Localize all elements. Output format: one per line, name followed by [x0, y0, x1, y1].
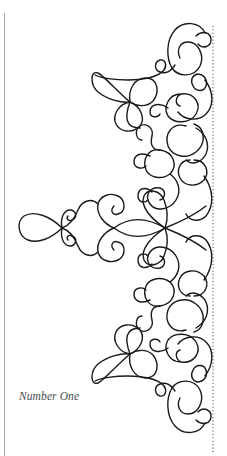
center-right-arc-down — [165, 228, 206, 250]
top-connector — [95, 60, 175, 80]
lower-right-circle-1 — [192, 366, 207, 383]
lower-mid-curl — [186, 293, 208, 328]
upper-mid-circle-b — [178, 160, 206, 185]
top-right-curl — [150, 105, 168, 117]
center-right-arc-up — [165, 206, 206, 228]
center-small-loop-lower — [61, 228, 75, 246]
upper-mid-circle-a — [145, 150, 174, 178]
lower-left-curl — [134, 288, 150, 302]
center-s-lower — [62, 228, 98, 255]
bottom-clover-right-loop — [130, 350, 157, 378]
lower-right-scroll — [186, 236, 212, 280]
lower-right-curl — [150, 339, 168, 351]
lower-mid-circle-a — [145, 279, 174, 307]
top-clover-right-loop — [130, 78, 157, 106]
bottom-clover-upper-loop — [115, 325, 143, 354]
center-small-loop-upper — [61, 210, 75, 228]
figure-caption: Number One — [19, 390, 79, 402]
upper-right-scroll — [186, 176, 212, 220]
upper-left-curl — [134, 154, 150, 168]
swirl-pattern-illustration — [0, 0, 227, 456]
top-small-curl — [196, 33, 211, 47]
bottom-small-curl — [196, 409, 211, 423]
bottom-connector — [95, 376, 175, 396]
center-s-upper — [62, 201, 98, 228]
swirl-motif-group — [19, 24, 212, 433]
quilting-motif-figure — [0, 0, 227, 456]
bottom-teardrop-left — [92, 354, 130, 384]
center-heart-upper — [98, 194, 124, 228]
lower-mid-circle-b — [178, 271, 206, 296]
top-right-circle-2 — [166, 94, 198, 122]
center-heart-lower — [98, 228, 124, 262]
center-left-teardrop — [19, 214, 62, 242]
upper-mid-curl — [186, 128, 208, 163]
lower-right-circle-2 — [166, 334, 198, 362]
top-right-circle-1 — [192, 74, 207, 91]
top-teardrop-left — [92, 73, 130, 103]
